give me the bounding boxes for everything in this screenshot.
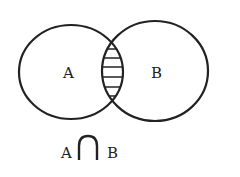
intersection-symbol-icon [79, 136, 97, 160]
caption-left: A [60, 144, 72, 162]
set-b-label: B [151, 64, 162, 82]
caption-right: B [107, 144, 118, 162]
venn-svg: A B A B [0, 0, 240, 177]
set-a-label: A [62, 64, 74, 82]
venn-diagram: A B A B [0, 0, 240, 177]
